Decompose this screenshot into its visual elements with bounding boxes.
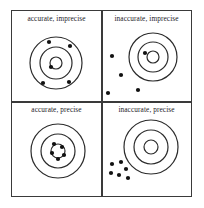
target-ring-3 bbox=[144, 140, 158, 154]
target-inaccurate-precise bbox=[102, 102, 191, 195]
shot-dot bbox=[67, 80, 71, 84]
shot-dot bbox=[49, 65, 53, 69]
shot-dot bbox=[109, 171, 113, 175]
quadrant-inaccurate-imprecise: inaccurate, imprecise bbox=[102, 11, 191, 101]
quadrant-accurate-precise: accurate, precise bbox=[12, 102, 101, 195]
quadrant-label-accurate-precise: accurate, precise bbox=[12, 105, 101, 114]
target-ring-2 bbox=[138, 42, 168, 72]
shot-dot bbox=[47, 40, 51, 44]
quadrant-label-accurate-imprecise: accurate, imprecise bbox=[12, 14, 101, 23]
target-inaccurate-imprecise bbox=[102, 11, 191, 101]
target-grid-frame: accurate, imprecise inaccurate, imprecis… bbox=[11, 10, 192, 197]
accuracy-precision-figure: accurate, imprecise inaccurate, imprecis… bbox=[0, 0, 204, 208]
quadrant-inaccurate-precise: inaccurate, precise bbox=[102, 102, 191, 195]
shot-dot bbox=[110, 54, 114, 58]
shot-dot bbox=[68, 44, 72, 48]
shot-dot bbox=[136, 88, 140, 92]
shot-dot bbox=[50, 151, 54, 155]
target-ring-2 bbox=[41, 134, 75, 168]
shot-dot bbox=[56, 157, 60, 161]
shot-dot bbox=[117, 173, 121, 177]
target-ring-1 bbox=[129, 33, 177, 81]
shot-dot bbox=[110, 162, 114, 166]
shot-dot bbox=[143, 51, 147, 55]
target-accurate-imprecise bbox=[12, 11, 101, 101]
shot-dot bbox=[60, 145, 64, 149]
shot-dot bbox=[124, 167, 128, 171]
quadrant-label-inaccurate-precise: inaccurate, precise bbox=[102, 105, 191, 114]
quadrant-accurate-imprecise: accurate, imprecise bbox=[12, 11, 101, 101]
shot-dot bbox=[52, 142, 56, 146]
target-ring-2 bbox=[40, 47, 72, 79]
shot-dot bbox=[119, 160, 123, 164]
shot-dot bbox=[62, 153, 66, 157]
target-ring-3 bbox=[147, 51, 159, 63]
target-accurate-precise bbox=[12, 102, 101, 195]
shot-dot bbox=[41, 81, 45, 85]
target-ring-1 bbox=[31, 124, 85, 178]
shot-dot bbox=[126, 176, 130, 180]
shot-dot bbox=[106, 91, 110, 95]
target-ring-2 bbox=[134, 130, 168, 164]
shot-dot bbox=[119, 73, 123, 77]
target-ring-1 bbox=[124, 120, 178, 174]
quadrant-label-inaccurate-imprecise: inaccurate, imprecise bbox=[102, 14, 191, 23]
target-ring-1 bbox=[30, 37, 82, 89]
